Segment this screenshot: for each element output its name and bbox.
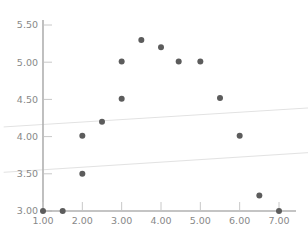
data-point (217, 95, 223, 101)
x-tick-labels-group: 1.002.003.004.005.006.007.00 (32, 215, 289, 226)
x-tick-label: 3.00 (111, 215, 132, 226)
x-tick-marks-group (43, 202, 279, 210)
data-point (176, 58, 182, 64)
data-point (99, 119, 105, 125)
data-point (197, 58, 203, 64)
data-point (79, 171, 85, 177)
data-point (119, 58, 125, 64)
x-tick-label: 2.00 (72, 215, 93, 226)
x-tick-label: 7.00 (268, 215, 289, 226)
data-point (158, 44, 164, 50)
data-points-group (40, 37, 282, 214)
x-axis-group: 1.002.003.004.005.006.007.00 (32, 202, 296, 226)
y-tick-label: 3.50 (17, 168, 38, 179)
upper-band-line (4, 107, 308, 127)
x-tick-label: 5.00 (190, 215, 211, 226)
y-tick-label: 4.00 (17, 131, 38, 142)
y-tick-label: 4.50 (17, 94, 38, 105)
y-tick-labels-group: 3.003.504.004.505.005.50 (17, 19, 38, 216)
data-point (60, 208, 66, 214)
data-point (79, 133, 85, 139)
lower-band-line (4, 151, 308, 172)
y-tick-label: 5.00 (17, 57, 38, 68)
data-point (40, 208, 46, 214)
data-point (276, 208, 282, 214)
data-point (237, 133, 243, 139)
scatter-plot-figure: 3.003.504.004.505.005.50 1.002.003.004.0… (0, 0, 308, 240)
y-tick-marks-group (44, 25, 52, 211)
y-axis-group: 3.003.504.004.505.005.50 (17, 19, 52, 216)
data-point (256, 192, 262, 198)
x-tick-label: 1.00 (32, 215, 53, 226)
x-tick-label: 4.00 (150, 215, 171, 226)
data-point (138, 37, 144, 43)
reference-lines-group (4, 107, 308, 172)
data-point (119, 96, 125, 102)
y-tick-label: 5.50 (17, 19, 38, 30)
x-tick-label: 6.00 (229, 215, 250, 226)
plot-canvas: 3.003.504.004.505.005.50 1.002.003.004.0… (0, 0, 308, 240)
